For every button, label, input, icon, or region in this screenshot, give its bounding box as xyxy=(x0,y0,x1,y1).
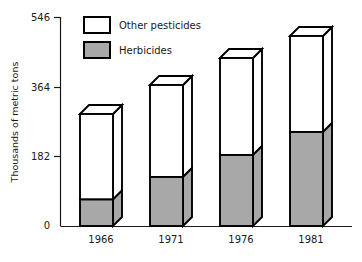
bar-1976-side-other xyxy=(253,49,262,155)
legend-label-herbicides: Herbicides xyxy=(119,45,172,56)
bar-1976 xyxy=(220,49,262,226)
bar-1971-face-other xyxy=(150,85,183,177)
y-tick-label-182: 182 xyxy=(31,151,50,162)
legend-item-other-pesticides: Other pesticides xyxy=(84,17,201,33)
y-tick-label-364: 364 xyxy=(31,82,50,93)
x-tick-label-1981: 1981 xyxy=(298,234,323,245)
pesticide-usage-chart: 546 364 182 0 1966 1971 1976 1981 Thousa… xyxy=(0,0,362,262)
y-axis: 546 364 182 0 xyxy=(31,12,61,231)
chart-canvas: 546 364 182 0 1966 1971 1976 1981 Thousa… xyxy=(0,0,362,262)
legend-swatch-herbicides xyxy=(84,42,110,58)
bar-1976-side-herbicides xyxy=(253,146,262,226)
x-tick-label-1966: 1966 xyxy=(88,234,113,245)
legend-label-other-pesticides: Other pesticides xyxy=(119,20,201,31)
bar-1981-face-other xyxy=(290,36,323,132)
bar-1966-side-other xyxy=(113,105,122,200)
x-tick-label-1971: 1971 xyxy=(158,234,183,245)
y-axis-title: Thousands of metric tons xyxy=(9,62,20,184)
y-tick-label-546: 546 xyxy=(31,12,50,23)
bar-1971-side-herbicides xyxy=(183,168,192,226)
bar-1966-face-other xyxy=(80,114,113,200)
bar-1981 xyxy=(290,27,332,226)
legend-item-herbicides: Herbicides xyxy=(84,42,172,58)
bar-1971-side-other xyxy=(183,76,192,177)
bar-1976-face-other xyxy=(220,58,253,155)
x-axis: 1966 1971 1976 1981 xyxy=(61,227,353,246)
bar-1981-face-herbicides xyxy=(290,132,323,226)
bar-1976-face-herbicides xyxy=(220,155,253,226)
x-tick-label-1976: 1976 xyxy=(228,234,253,245)
bar-1966-face-herbicides xyxy=(80,200,113,227)
y-tick-label-0: 0 xyxy=(44,220,50,231)
legend-swatch-other-pesticides xyxy=(84,17,110,33)
bar-1971-face-herbicides xyxy=(150,177,183,226)
bar-1981-side-herbicides xyxy=(323,123,332,226)
bar-1966 xyxy=(80,105,122,226)
chart-legend: Other pesticides Herbicides xyxy=(84,17,201,58)
bar-1981-side-other xyxy=(323,27,332,132)
bar-1971 xyxy=(150,76,192,226)
